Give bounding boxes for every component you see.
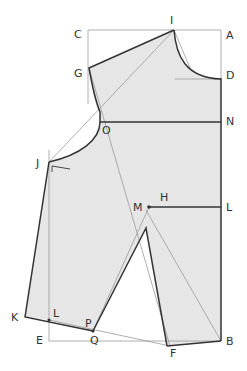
pattern-diagram — [0, 0, 247, 371]
label-L-left: L — [53, 308, 59, 319]
label-M: M — [133, 202, 143, 213]
label-F: F — [170, 348, 176, 359]
label-D: D — [226, 70, 234, 81]
label-P: P — [85, 318, 92, 329]
label-K: K — [11, 312, 18, 323]
label-N: N — [226, 116, 234, 127]
label-I: I — [170, 15, 173, 26]
label-J: J — [36, 158, 39, 169]
label-H: H — [160, 192, 168, 203]
label-C: C — [74, 29, 82, 40]
label-G: G — [74, 68, 83, 79]
pattern-piece — [25, 30, 221, 346]
label-A: A — [226, 30, 234, 41]
label-B: B — [226, 336, 234, 347]
label-E: E — [36, 335, 43, 346]
label-Q: Q — [90, 335, 99, 346]
label-O: O — [102, 125, 111, 136]
label-L-right: L — [226, 202, 232, 213]
